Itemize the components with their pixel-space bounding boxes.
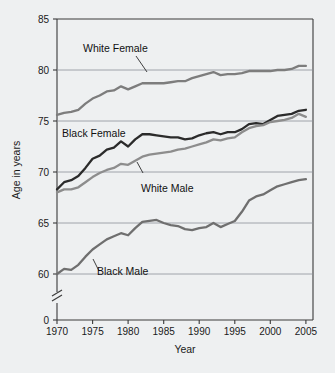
y-tick-label-85: 85 xyxy=(38,14,50,25)
y-tick-label-zero: 0 xyxy=(43,315,49,326)
x-tick-label-2005: 2005 xyxy=(295,326,318,337)
y-tick-label-65: 65 xyxy=(38,218,50,229)
y-tick-label-60: 60 xyxy=(38,269,50,280)
y-tick-label-80: 80 xyxy=(38,65,50,76)
series-label-black-female: Black Female xyxy=(62,127,126,139)
x-tick-label-1990: 1990 xyxy=(188,326,211,337)
y-axis-title: Age in years xyxy=(10,141,22,199)
x-tick-label-1980: 1980 xyxy=(117,326,140,337)
life-expectancy-line-chart: 85 80 75 70 65 60 0 1970 1975 1980 1985 … xyxy=(0,0,335,373)
series-label-white-female: White Female xyxy=(83,42,148,54)
y-tick-label-75: 75 xyxy=(38,116,50,127)
x-axis-title: Year xyxy=(174,343,196,355)
x-tick-label-1970: 1970 xyxy=(46,326,69,337)
x-tick-label-1975: 1975 xyxy=(81,326,104,337)
y-tick-label-70: 70 xyxy=(38,167,50,178)
x-tick-label-1985: 1985 xyxy=(153,326,176,337)
series-label-black-male: Black Male xyxy=(97,265,149,277)
x-tick-label-2000: 2000 xyxy=(259,326,282,337)
x-tick-label-1995: 1995 xyxy=(224,326,247,337)
series-label-white-male: White Male xyxy=(141,182,194,194)
chart-page: 85 80 75 70 65 60 0 1970 1975 1980 1985 … xyxy=(0,0,335,373)
